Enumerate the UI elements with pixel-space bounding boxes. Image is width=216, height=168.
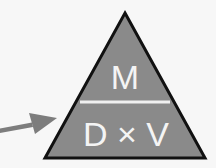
formula-triangle-diagram: M D × V: [0, 0, 216, 168]
pointer-arrow: [0, 113, 57, 134]
bottom-label-d-times-v: D × V: [83, 115, 169, 153]
top-label-m: M: [111, 58, 139, 96]
divider-line: [80, 101, 170, 104]
